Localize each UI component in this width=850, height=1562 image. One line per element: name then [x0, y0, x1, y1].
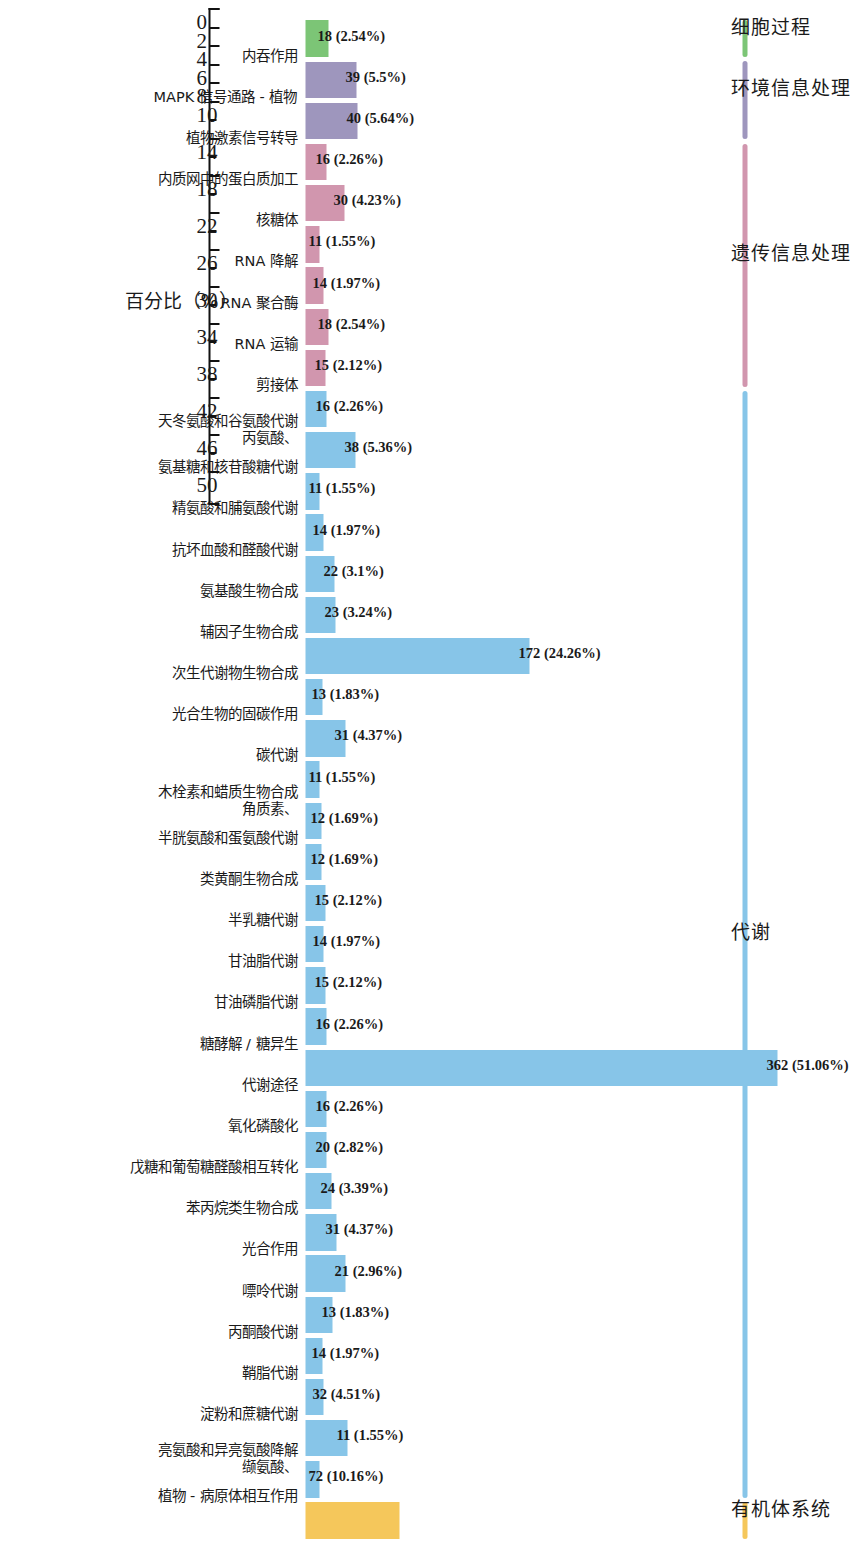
axis-tick-label: 42	[196, 399, 217, 424]
axis-tick-label: 26	[196, 251, 217, 276]
axis-tick-major	[209, 45, 219, 47]
axis-tick-major	[209, 8, 219, 10]
axis-tick-major	[209, 64, 219, 66]
axis-tick-major	[209, 82, 219, 84]
axis-tick-minor	[209, 378, 216, 380]
axis-tick-label: 46	[196, 436, 217, 461]
axis-tick-minor	[209, 415, 216, 417]
axis-end-cap	[208, 503, 219, 505]
axis-tick-minor	[209, 119, 216, 121]
axis-tick-label: 34	[196, 325, 217, 350]
axis-tick-minor	[209, 230, 216, 232]
axis-tick-minor	[209, 267, 216, 269]
axis-tick-label: 50	[196, 473, 217, 498]
axis-tick-minor	[209, 341, 216, 343]
axis-tick-minor	[209, 193, 216, 195]
axis-tick-label: 14	[196, 140, 217, 165]
axis-tick-label: 10	[196, 103, 217, 128]
axis-tick-label: 22	[196, 214, 217, 239]
axis-tick-label: 18	[196, 177, 217, 202]
axis-title: 百分比（%）	[124, 286, 237, 313]
axis-tick-label: 38	[196, 362, 217, 387]
axis-tick-minor	[209, 156, 216, 158]
axis-tick-minor	[209, 452, 216, 454]
axis-tick-major	[209, 27, 219, 29]
